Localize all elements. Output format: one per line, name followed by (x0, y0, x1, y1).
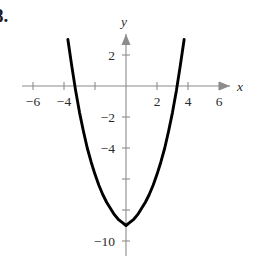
coordinate-plot: x y −6 −4 2 4 6 2 −2 −4 −10 (0, 0, 260, 261)
x-axis-label: x (236, 79, 243, 94)
y-tick-label-neg10: −10 (94, 234, 115, 249)
graph-figure: 8. x y −6 −4 2 4 6 2 (0, 0, 260, 261)
x-axis-arrow-icon (219, 82, 230, 91)
x-tick-label-neg4: −4 (57, 94, 72, 109)
y-axis-label: y (119, 14, 127, 29)
y-tick-label-neg4: −4 (101, 141, 116, 156)
x-tick-label-neg6: −6 (26, 94, 41, 109)
x-tick-label-pos4: 4 (185, 94, 192, 109)
y-axis-arrow-icon (122, 34, 131, 45)
y-tick-label-neg2: −2 (101, 110, 115, 125)
x-tick-label-pos6: 6 (216, 94, 223, 109)
y-tick-label-pos2: 2 (108, 48, 115, 63)
x-tick-label-pos2: 2 (154, 94, 161, 109)
